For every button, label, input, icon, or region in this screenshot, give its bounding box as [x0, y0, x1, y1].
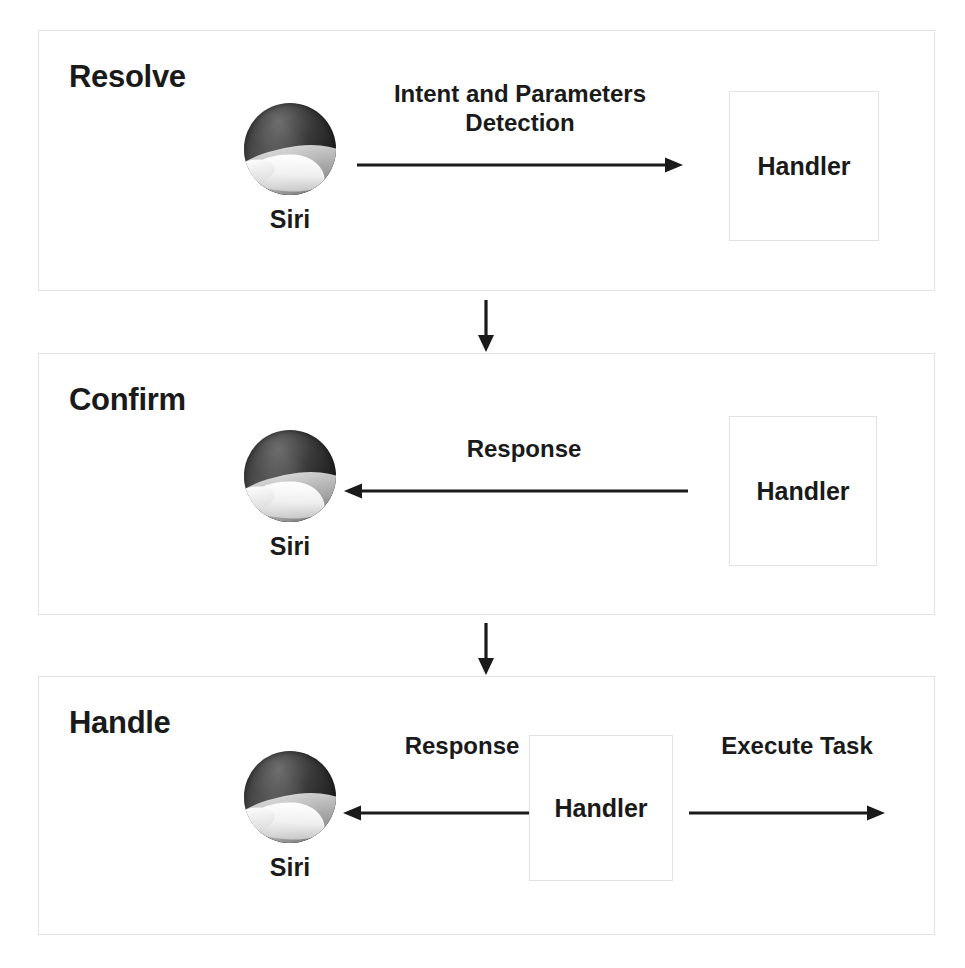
connector-resolve-to-confirm [476, 299, 496, 353]
handler-label: Handler [757, 152, 850, 181]
siri-label: Siri [244, 853, 336, 882]
edge-label-intent-and-parameters-detection: Intent and Parameters Detection [355, 79, 685, 138]
siri-label: Siri [244, 205, 336, 234]
siri-icon [244, 751, 336, 843]
panel-resolve: Resolve Siri Intent and Parameters Detec… [38, 30, 935, 291]
siri-gloss [244, 751, 336, 843]
handler-label: Handler [554, 794, 647, 823]
handler-box-resolve: Handler [729, 91, 879, 241]
arrow-right-intent-detection [355, 156, 685, 174]
siri-gloss [244, 430, 336, 522]
handler-box-handle: Handler [529, 735, 673, 881]
panel-handle: Handle Siri Response Handler Execute Tas… [38, 676, 935, 935]
siri-actor-confirm: Siri [244, 430, 336, 561]
siri-actor-handle: Siri [244, 751, 336, 882]
panel-title-resolve: Resolve [69, 59, 186, 95]
handler-box-confirm: Handler [729, 416, 877, 566]
arrow-left-response [341, 804, 531, 822]
edge-label-response: Response [419, 434, 629, 463]
siri-gloss [244, 103, 336, 195]
edge-label-execute-task: Execute Task [687, 731, 907, 760]
siri-icon [244, 103, 336, 195]
panel-title-confirm: Confirm [69, 382, 186, 418]
siri-label: Siri [244, 532, 336, 561]
siri-icon [244, 430, 336, 522]
diagram-canvas: Resolve Siri Intent and Parameters Detec… [0, 0, 965, 968]
handler-label: Handler [756, 477, 849, 506]
connector-confirm-to-handle [476, 622, 496, 676]
edge-label-response: Response [377, 731, 547, 760]
panel-title-handle: Handle [69, 705, 171, 741]
arrow-right-execute-task [687, 804, 887, 822]
siri-actor-resolve: Siri [244, 103, 336, 234]
panel-confirm: Confirm Siri Response Handler [38, 353, 935, 615]
arrow-left-response [342, 482, 690, 500]
